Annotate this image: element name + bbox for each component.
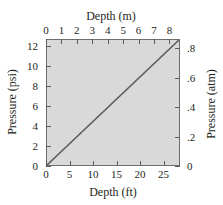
left-tick	[46, 166, 51, 167]
bottom-tick	[70, 161, 71, 166]
right-tick-label: 0	[187, 161, 193, 172]
data-series-line	[47, 40, 179, 165]
left-tick	[46, 86, 51, 87]
top-tick	[139, 39, 140, 44]
right-tick	[175, 48, 180, 49]
top-tick-label: 5	[120, 25, 126, 36]
top-tick	[154, 39, 155, 44]
top-tick	[169, 39, 170, 44]
top-tick-label: 7	[151, 25, 157, 36]
right-tick-label: .8	[187, 43, 195, 54]
left-tick-label: 8	[33, 81, 39, 92]
top-tick-label: 3	[90, 25, 96, 36]
right-tick	[175, 137, 180, 138]
right-axis-title: Pressure (atm)	[205, 69, 217, 139]
left-tick-label: 4	[33, 121, 39, 132]
top-tick-label: 0	[43, 25, 49, 36]
right-tick-label: .6	[187, 72, 195, 83]
top-tick	[77, 39, 78, 44]
top-tick-label: 2	[74, 25, 80, 36]
top-tick-label: 6	[136, 25, 142, 36]
left-tick-label: 10	[27, 61, 38, 72]
left-tick-label: 0	[33, 161, 39, 172]
left-axis-title: Pressure (psi)	[6, 69, 18, 135]
bottom-tick-label: 0	[43, 169, 49, 180]
bottom-tick-label: 20	[135, 169, 146, 180]
bottom-axis-title: Depth (ft)	[89, 186, 137, 198]
bottom-tick	[140, 161, 141, 166]
top-tick	[61, 39, 62, 44]
left-tick	[46, 106, 51, 107]
plot-area	[46, 39, 180, 166]
top-tick	[123, 39, 124, 44]
left-tick-label: 2	[33, 141, 39, 152]
bottom-tick	[117, 161, 118, 166]
top-tick-label: 4	[105, 25, 111, 36]
left-tick	[46, 66, 51, 67]
data-line-layer	[47, 40, 179, 165]
top-tick	[108, 39, 109, 44]
bottom-tick-label: 5	[67, 169, 73, 180]
bottom-tick-label: 25	[158, 169, 169, 180]
top-axis-title: Depth (m)	[86, 10, 136, 22]
right-tick	[175, 107, 180, 108]
bottom-tick	[93, 161, 94, 166]
right-tick	[175, 166, 180, 167]
right-tick-label: .4	[187, 102, 195, 113]
top-tick-label: 8	[167, 25, 173, 36]
left-tick-label: 6	[33, 101, 39, 112]
top-tick	[92, 39, 93, 44]
left-tick-label: 12	[27, 41, 38, 52]
top-tick	[46, 39, 47, 44]
left-tick	[46, 126, 51, 127]
bottom-tick-label: 10	[88, 169, 99, 180]
bottom-tick-label: 15	[111, 169, 122, 180]
bottom-tick	[164, 161, 165, 166]
left-tick	[46, 146, 51, 147]
right-tick-label: .2	[187, 131, 195, 142]
pressure-depth-chart: Depth (m) Depth (ft) Pressure (psi) Pres…	[0, 0, 223, 205]
right-tick	[175, 78, 180, 79]
top-tick-label: 1	[59, 25, 65, 36]
left-tick	[46, 46, 51, 47]
